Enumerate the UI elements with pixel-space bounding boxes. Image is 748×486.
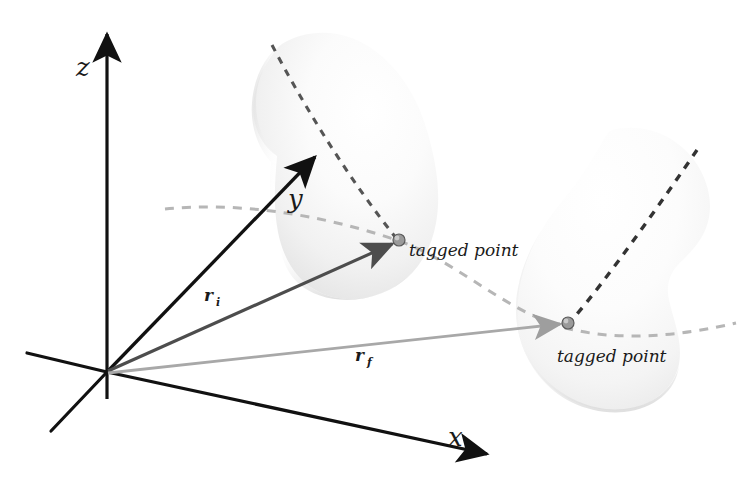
tagged-point-initial-highlight	[395, 236, 400, 241]
y-axis-label: y	[287, 184, 303, 214]
tagged-point-final-highlight	[564, 319, 569, 324]
ri-subscript: i	[216, 296, 220, 309]
tagged-point-final-marker	[562, 317, 574, 329]
x-axis-negative-segment	[27, 353, 107, 372]
final-body-surface	[516, 128, 710, 410]
position-vector-ri: r i	[108, 244, 392, 371]
tagged-point-initial-label: tagged point	[409, 240, 519, 260]
rf-arrow-line	[108, 324, 560, 373]
y-axis-negative-segment	[51, 372, 107, 431]
physics-diagram-canvas: z y x r i r f tagged point tagged point	[0, 0, 748, 486]
rf-subscript: f	[366, 356, 374, 369]
rf-label: r	[355, 345, 365, 365]
z-axis-label: z	[75, 52, 90, 82]
tagged-point-initial-marker	[393, 234, 405, 246]
x-axis-line	[107, 372, 487, 454]
ri-label: r	[204, 285, 214, 305]
tagged-point-final-label: tagged point	[557, 346, 667, 366]
ri-arrow-line	[108, 244, 392, 371]
position-vector-rf: r f	[108, 324, 560, 373]
final-configuration-body	[516, 128, 710, 413]
diagram-svg: z y x r i r f tagged point tagged point	[0, 0, 748, 486]
x-axis-label: x	[448, 422, 463, 452]
y-axis-line	[107, 157, 315, 372]
